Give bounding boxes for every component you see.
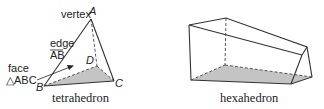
- edge-right-top: [302, 47, 307, 55]
- edge-label: edge: [50, 37, 74, 49]
- edge-top-front: [189, 25, 302, 55]
- face-label: face: [8, 62, 29, 74]
- polyhedra-diagram: vertex A edge AB face △ABC B C D tetrahe…: [0, 0, 324, 109]
- vertex-A-label: A: [88, 5, 96, 17]
- vertex-D-label: D: [86, 54, 94, 66]
- vertex-C-label: C: [115, 77, 123, 89]
- vertex-B-label: B: [36, 81, 43, 93]
- tetrahedron-caption: tetrahedron: [52, 91, 110, 105]
- tetrahedron-figure: vertex A edge AB face △ABC B C D tetrahe…: [6, 5, 123, 105]
- edge-name-label: AB: [50, 49, 65, 61]
- face-name-label: △ABC: [6, 74, 37, 86]
- hidden-edge-vertical: [225, 18, 226, 65]
- hexahedron-caption: hexahedron: [220, 91, 279, 105]
- face-arrow-head: [67, 65, 74, 70]
- vertex-label: vertex: [61, 8, 91, 20]
- hexahedron-figure: hexahedron: [189, 18, 312, 105]
